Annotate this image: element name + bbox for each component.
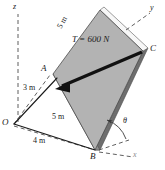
theta-angle-label: θ bbox=[123, 117, 127, 125]
dim-4m-label: 4 m bbox=[33, 137, 45, 145]
point-a-label: A bbox=[41, 64, 47, 73]
point-c-label: C bbox=[150, 44, 156, 53]
dim-5m-ob-label: 5 m bbox=[52, 113, 64, 121]
point-o-label: O bbox=[2, 118, 9, 127]
y-axis-label: y bbox=[150, 4, 154, 12]
dim-3m-label: 3 m bbox=[23, 84, 35, 92]
y-axis-line bbox=[126, 13, 150, 30]
mechanics-figure: z y x O A B C 3 m 5 m 5 m 4 m T = 600 N … bbox=[0, 0, 165, 170]
tension-force-label: T = 600 N bbox=[72, 35, 109, 44]
x-axis-label: x bbox=[133, 151, 137, 159]
z-axis-label: z bbox=[13, 3, 16, 11]
line-o-to-a bbox=[14, 78, 57, 124]
x-axis-line bbox=[99, 152, 133, 157]
point-b-label: B bbox=[90, 152, 96, 161]
